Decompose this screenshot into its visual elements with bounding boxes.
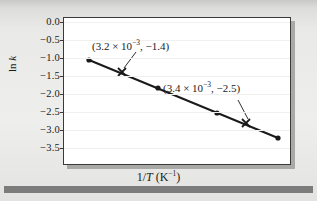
y-tick-label: −1.5 xyxy=(40,70,60,81)
point-annotation-2: (3.4 × 10−3, −2.5) xyxy=(163,80,240,94)
x-axis-title: 1/T (K−1) xyxy=(0,169,317,185)
y-tick-label: −3.0 xyxy=(40,124,60,135)
y-tick-mark xyxy=(60,58,64,59)
y-tick-label: −2.5 xyxy=(40,106,60,117)
y-tick-label: −1.0 xyxy=(40,52,60,63)
bottom-decorative-bar xyxy=(4,186,313,193)
gridline xyxy=(64,148,290,149)
gridline xyxy=(64,76,290,77)
gridline xyxy=(64,22,290,23)
top-decorative-band xyxy=(0,0,317,9)
y-tick-label: −3.5 xyxy=(40,142,60,153)
gridline xyxy=(64,94,290,95)
y-tick-mark xyxy=(60,76,64,77)
figure-root: 0.0 −0.5 −1.0 −1.5 −2.0 −2.5 −3.0 −3.5 l… xyxy=(0,0,317,201)
gridline xyxy=(64,58,290,59)
gridline xyxy=(64,130,290,131)
gridline xyxy=(64,112,290,113)
leader-line-2 xyxy=(238,100,248,119)
y-axis-tick-labels: 0.0 −0.5 −1.0 −1.5 −2.0 −2.5 −3.0 −3.5 xyxy=(20,17,60,165)
y-tick-mark xyxy=(60,22,64,23)
leader-line-1 xyxy=(124,52,136,68)
y-tick-label: −0.5 xyxy=(40,34,60,45)
y-tick-label: 0.0 xyxy=(46,16,60,27)
y-tick-label: −2.0 xyxy=(40,88,60,99)
y-tick-mark xyxy=(60,112,64,113)
y-tick-mark xyxy=(60,148,64,149)
point-annotation-1: (3.2 × 10−3, −1.4) xyxy=(92,38,169,52)
y-tick-mark xyxy=(60,94,64,95)
data-point xyxy=(275,135,280,140)
y-axis-title: ln k xyxy=(6,56,18,72)
y-tick-mark xyxy=(60,130,64,131)
y-tick-mark xyxy=(60,40,64,41)
data-point xyxy=(155,85,160,90)
